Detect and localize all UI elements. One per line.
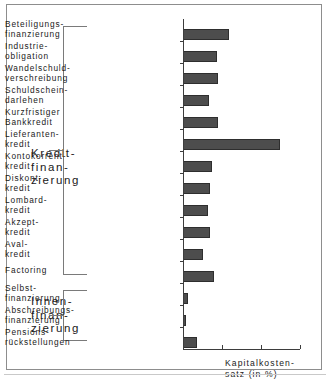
chart-row: Industrie- obligation	[7, 41, 321, 63]
bar-category-label: Lombard- kredit	[5, 196, 125, 215]
y-axis-tick	[180, 129, 183, 130]
figure-frame: Kredit- finan- zierung Innen- finan- zie…	[6, 4, 322, 370]
bar	[183, 51, 217, 62]
y-axis-tick	[180, 107, 183, 108]
chart-row: Akzept- kredit	[7, 217, 321, 239]
bar-category-label: Kontokorrent- kredit	[5, 152, 125, 171]
chart-row: Beteiligungs- finanzierung	[7, 19, 321, 41]
y-axis-tick	[180, 217, 183, 218]
bar-category-label: Industrie- obligation	[5, 42, 125, 61]
chart-row: Kurzfristiger Bankkredit	[7, 107, 321, 129]
bar-category-label: Factoring	[5, 266, 125, 276]
chart-row: Selbst- finanzierung	[7, 283, 321, 305]
bar	[183, 117, 218, 128]
chart-rows: Beteiligungs- finanzierungIndustrie- obl…	[7, 5, 321, 369]
y-axis-tick	[180, 173, 183, 174]
bar-category-label: Kurzfristiger Bankkredit	[5, 108, 125, 127]
chart-row: Abschreibungs- finanzierung	[7, 305, 321, 327]
bar-category-label: Selbst- finanzierung	[5, 284, 125, 303]
x-axis-tick	[222, 345, 223, 349]
bar	[183, 161, 212, 172]
bar-category-label: Pensions- rückstellungen	[5, 328, 125, 347]
bar	[183, 227, 210, 238]
bar	[183, 249, 203, 260]
chart-row: Aval- kredit	[7, 239, 321, 261]
chart-row: Diskont- kredit	[7, 173, 321, 195]
y-axis-tick	[180, 283, 183, 284]
x-axis-tick	[261, 345, 262, 349]
bar-category-label: Beteiligungs- finanzierung	[5, 20, 125, 39]
bar-category-label: Diskont- kredit	[5, 174, 125, 193]
y-axis-tick	[180, 63, 183, 64]
chart-row: Wandelschuld- verschreibung	[7, 63, 321, 85]
bar-category-label: Aval- kredit	[5, 240, 125, 259]
y-axis-tick	[180, 85, 183, 86]
y-axis-tick	[180, 239, 183, 240]
chart-row: Schuldschein- darlehen	[7, 85, 321, 107]
bar	[183, 271, 214, 282]
bar-category-label: Lieferanten- kredit	[5, 130, 125, 149]
y-axis-tick	[180, 305, 183, 306]
chart-row: Lombard- kredit	[7, 195, 321, 217]
x-axis-line	[183, 349, 300, 350]
bar	[183, 95, 209, 106]
bar-category-label: Wandelschuld- verschreibung	[5, 64, 125, 83]
caption-rule	[4, 374, 326, 375]
bar	[183, 205, 208, 216]
x-axis-title: Kapitalkosten- satz (in %)	[225, 358, 295, 380]
y-axis-tick	[180, 151, 183, 152]
chart-row: Pensions- rückstellungen	[7, 327, 321, 349]
y-axis-tick	[180, 261, 183, 262]
bar-category-label: Akzept- kredit	[5, 218, 125, 237]
chart-row: Kontokorrent- kredit	[7, 151, 321, 173]
chart-row: Factoring	[7, 261, 321, 283]
y-axis-tick	[180, 195, 183, 196]
y-axis-tick	[180, 41, 183, 42]
bar-category-label: Schuldschein- darlehen	[5, 86, 125, 105]
y-axis-line	[183, 19, 184, 349]
bar	[183, 29, 229, 40]
bar	[183, 337, 197, 348]
bar	[183, 139, 280, 150]
y-axis-tick	[180, 327, 183, 328]
bar-category-label: Abschreibungs- finanzierung	[5, 306, 125, 325]
x-axis-tick	[300, 345, 301, 349]
bar	[183, 73, 218, 84]
chart-row: Lieferanten- kredit	[7, 129, 321, 151]
bar	[183, 183, 210, 194]
